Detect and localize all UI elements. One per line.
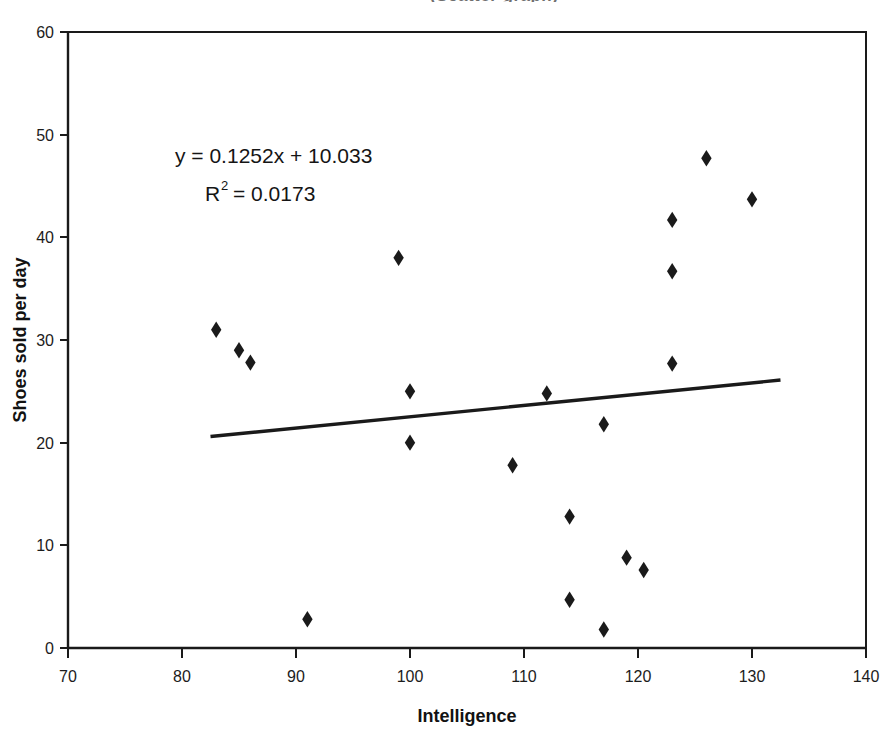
scatter-point	[405, 383, 415, 399]
y-tick-label-10: 10	[36, 537, 54, 554]
scatter-point	[564, 508, 574, 524]
x-tick-label-80: 80	[173, 668, 191, 685]
y-tick-label-50: 50	[36, 127, 54, 144]
scatter-point	[302, 611, 312, 627]
x-tick-label-130: 130	[739, 668, 766, 685]
r-squared-value: = 0.0173	[233, 182, 315, 205]
scatter-point	[747, 191, 757, 207]
scatter-point	[599, 416, 609, 432]
y-axis: 0 10 20 30 40 50 60 Shoes sold per day	[10, 24, 68, 657]
y-axis-title: Shoes sold per day	[10, 257, 30, 422]
r-squared-label: R 2 = 0.0173	[205, 178, 315, 205]
scatter-point	[639, 562, 649, 578]
scatter-point	[621, 549, 631, 565]
y-tick-label-30: 30	[36, 332, 54, 349]
y-tick-label-60: 60	[36, 24, 54, 41]
y-tick-label-20: 20	[36, 435, 54, 452]
scatter-point	[245, 354, 255, 370]
scatter-point	[507, 457, 517, 473]
scatter-point	[667, 355, 677, 371]
x-axis: 70 80 90 100 110 120 130 140 Intelligenc…	[59, 648, 879, 726]
x-tick-label-90: 90	[287, 668, 305, 685]
scatter-point	[405, 434, 415, 450]
x-tick-label-120: 120	[625, 668, 652, 685]
plot-canvas: 0 10 20 30 40 50 60 Shoes sold per day 7…	[0, 0, 893, 744]
scatter-plot-figure: (Scatter graph) 0 10 20 30 40 50 60 Shoe…	[0, 0, 893, 744]
scatter-point	[667, 212, 677, 228]
scatter-point	[701, 150, 711, 166]
scatter-point	[542, 385, 552, 401]
trendline	[211, 380, 781, 436]
x-tick-label-110: 110	[511, 668, 537, 685]
scatter-point	[564, 592, 574, 608]
scatter-point	[667, 263, 677, 279]
r-squared-prefix: R	[205, 182, 220, 205]
x-tick-label-100: 100	[397, 668, 424, 685]
x-tick-label-70: 70	[59, 668, 77, 685]
scatter-markers	[211, 150, 757, 638]
plot-border	[68, 32, 866, 648]
scatter-point	[234, 342, 244, 358]
y-tick-label-40: 40	[36, 229, 54, 246]
scatter-point	[599, 621, 609, 637]
scatter-point	[211, 322, 221, 338]
x-tick-label-140: 140	[853, 668, 880, 685]
scatter-point	[393, 250, 403, 266]
r-squared-exponent: 2	[221, 178, 228, 193]
x-axis-title: Intelligence	[417, 706, 516, 726]
y-tick-label-0: 0	[45, 640, 54, 657]
trendline-equation-label: y = 0.1252x + 10.033	[175, 144, 372, 167]
